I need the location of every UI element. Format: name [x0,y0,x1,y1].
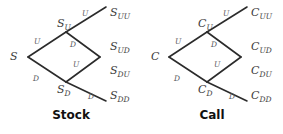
node-root: S [10,51,18,62]
call-tree-caption: Call [141,108,283,122]
branch-label-root-up: U [175,38,181,46]
branch-label-root-up: U [34,38,40,46]
branch-label-root-down: D [174,75,180,83]
branch-label-up-down: D [211,41,217,49]
node-up-down: SUD [110,41,130,52]
branch-label-up-down: D [70,41,76,49]
node-up: SU [57,18,71,29]
node-up: CU [198,18,213,29]
node-root: C [151,51,159,62]
edge-down-du [66,57,100,82]
branch-label-down-up: U [73,61,79,69]
branch-label-up-up: U [223,10,229,18]
call-tree: C CU CD CUU CUD CDU CDD U D U D U D Call [141,0,283,134]
edge-down-dd [66,82,106,101]
branch-label-down-up: U [214,61,220,69]
branch-label-up-up: U [82,10,88,18]
branch-label-root-down: D [33,75,39,83]
branch-label-down-down: D [88,93,94,101]
branch-label-down-down: D [229,93,235,101]
node-down-up: CDU [251,65,272,76]
node-down-down: CDD [251,90,271,101]
node-up-up: SUU [110,7,130,18]
node-up-up: CUU [251,7,272,18]
edge-down-dd [207,82,247,101]
node-up-down: CUD [251,41,272,52]
node-down-down: SDD [110,90,130,101]
stock-tree: S SU SD SUU SUD SDU SDD U D U D U D Stoc… [0,0,142,134]
node-down: SD [57,84,71,95]
node-down: CD [198,84,212,95]
edge-down-du [207,57,241,82]
node-down-up: SDU [110,65,130,76]
binomial-tree-figure: S SU SD SUU SUD SDU SDD U D U D U D Stoc… [0,0,283,134]
stock-tree-caption: Stock [0,108,142,122]
